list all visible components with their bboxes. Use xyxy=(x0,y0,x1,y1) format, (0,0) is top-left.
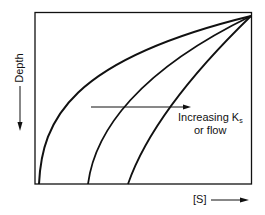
plot-frame xyxy=(35,13,252,185)
x-axis-label: [S] xyxy=(193,193,206,205)
annotation-line-1: Increasing Ks xyxy=(178,111,243,124)
increasing-arrow xyxy=(91,105,191,110)
y-axis-label: Depth xyxy=(13,50,25,86)
curve-1 xyxy=(39,16,251,184)
curve-3 xyxy=(128,16,251,184)
annotation-line-2: or flow xyxy=(194,124,226,136)
annotation-text: Increasing K xyxy=(178,111,239,123)
diagram-canvas xyxy=(0,0,265,215)
concentration-arrow xyxy=(211,198,249,203)
annotation-subscript: s xyxy=(239,117,243,124)
depth-arrow xyxy=(18,86,23,131)
